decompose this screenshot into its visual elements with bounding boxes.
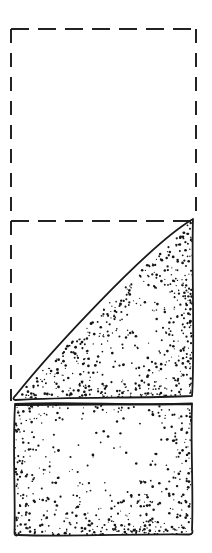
- paper-folding-illustration: Paper folding diagram Hand-drawn line il…: [0, 0, 212, 553]
- figure-background: [0, 0, 212, 553]
- figure-canvas: Paper folding diagram Hand-drawn line il…: [0, 0, 212, 553]
